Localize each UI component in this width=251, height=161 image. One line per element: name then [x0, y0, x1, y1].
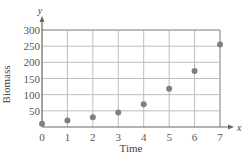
x-tick-label: 5	[166, 131, 172, 143]
y-tick-label: 150	[24, 73, 41, 85]
y-axis-arrow-icon	[40, 16, 45, 22]
data-points	[39, 42, 223, 127]
x-tick-label: 0	[39, 131, 45, 143]
grid	[42, 30, 220, 127]
data-point	[115, 109, 121, 115]
x-tick-label: 6	[192, 131, 198, 143]
data-point	[90, 114, 96, 120]
x-axis-title: Time	[120, 142, 143, 154]
y-tick-label: 50	[29, 105, 41, 117]
y-tick-label: 300	[24, 24, 41, 36]
data-point	[141, 101, 147, 107]
y-tick-label: 100	[24, 89, 41, 101]
x-tick-label: 1	[65, 131, 71, 143]
axis-labels: 0123456750100150200250300TimeBiomassxy	[0, 5, 242, 154]
y-tick-label: 250	[24, 40, 41, 52]
x-tick-label: 7	[217, 131, 223, 143]
data-point	[192, 68, 198, 74]
y-axis-variable: y	[37, 5, 43, 16]
y-tick-label: 200	[24, 56, 41, 68]
scatter-chart: 0123456750100150200250300TimeBiomassxy	[0, 0, 251, 161]
axes	[40, 16, 235, 130]
data-point	[39, 121, 45, 127]
x-tick-label: 2	[90, 131, 96, 143]
data-point	[166, 86, 172, 92]
data-point	[217, 42, 223, 48]
x-axis-variable: x	[236, 122, 242, 133]
y-axis-title: Biomass	[0, 66, 12, 104]
data-point	[64, 118, 70, 124]
x-axis-arrow-icon	[228, 125, 234, 130]
